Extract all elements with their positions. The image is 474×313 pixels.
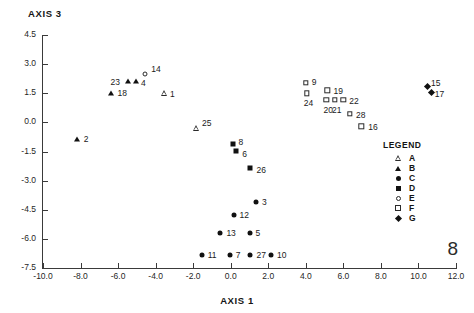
y-tick xyxy=(43,64,48,65)
x-tick-label: 10.0 xyxy=(398,271,438,281)
legend-marker-icon xyxy=(392,216,404,221)
legend-item: F xyxy=(392,203,421,213)
data-point-label: 2 xyxy=(84,134,89,144)
data-point-marker xyxy=(218,231,223,236)
data-point-label: 17 xyxy=(435,89,444,99)
data-point-label: 25 xyxy=(202,118,211,128)
figure-number: 8 xyxy=(447,238,458,260)
data-point-label: 1 xyxy=(170,89,175,99)
data-point-marker xyxy=(74,136,80,141)
data-point-marker xyxy=(230,141,235,146)
legend-marker-icon xyxy=(392,205,404,210)
data-point-marker xyxy=(234,148,239,153)
legend-marker-icon xyxy=(392,186,404,191)
y-tick xyxy=(43,181,48,182)
data-point-marker xyxy=(347,111,352,116)
legend-marker-icon xyxy=(392,176,404,181)
x-tick-label: 0.0 xyxy=(211,271,251,281)
x-tick xyxy=(381,263,382,268)
legend-item: A xyxy=(392,153,421,163)
legend-label: D xyxy=(409,183,415,193)
legend-label: B xyxy=(409,163,415,173)
legend-item: G xyxy=(392,213,421,223)
y-tick xyxy=(43,93,48,94)
data-point-label: 10 xyxy=(277,250,286,260)
data-point-marker xyxy=(324,97,329,102)
data-points-layer: 2182341412586263121351172710924192021222… xyxy=(0,0,474,12)
data-point-label: 4 xyxy=(141,78,146,88)
legend-label: G xyxy=(409,213,416,223)
data-point-marker xyxy=(231,212,236,217)
data-point-label: 24 xyxy=(304,98,313,108)
data-point-label: 6 xyxy=(242,149,247,159)
y-tick-label: -1.5 xyxy=(2,146,36,156)
legend-marker-icon xyxy=(392,196,404,201)
data-point-marker xyxy=(143,71,148,76)
x-tick-label: 12.0 xyxy=(436,271,474,281)
data-point-marker xyxy=(341,97,346,102)
legend-item: B xyxy=(392,163,421,173)
legend-marker-icon xyxy=(392,166,404,171)
data-point-label: 12 xyxy=(240,210,249,220)
data-point-label: 18 xyxy=(118,88,127,98)
y-tick xyxy=(43,239,48,240)
data-point-marker xyxy=(303,80,308,85)
data-point-label: 23 xyxy=(110,77,119,87)
x-tick xyxy=(231,263,232,268)
x-tick xyxy=(306,263,307,268)
data-point-label: 27 xyxy=(256,250,265,260)
data-point-marker xyxy=(428,89,435,96)
x-tick xyxy=(81,263,82,268)
data-point-label: 16 xyxy=(368,122,377,132)
data-point-label: 22 xyxy=(349,96,358,106)
legend-item: D xyxy=(392,183,421,193)
x-tick-label: -8.0 xyxy=(61,271,101,281)
data-point-marker xyxy=(269,253,274,258)
x-tick xyxy=(118,263,119,268)
data-point-label: 13 xyxy=(226,228,235,238)
data-point-marker xyxy=(125,78,131,83)
x-axis-line xyxy=(42,268,457,269)
x-tick xyxy=(456,263,457,268)
data-point-marker xyxy=(254,199,259,204)
data-point-marker xyxy=(304,91,309,96)
y-tick xyxy=(43,122,48,123)
x-tick xyxy=(343,263,344,268)
x-tick-label: 6.0 xyxy=(323,271,363,281)
x-tick-label: -4.0 xyxy=(136,271,176,281)
x-tick xyxy=(418,263,419,268)
legend-marker-icon xyxy=(392,155,404,161)
legend: LEGEND ABCDEFG xyxy=(383,140,421,223)
x-tick-label: -6.0 xyxy=(98,271,138,281)
data-point-marker xyxy=(161,90,167,96)
x-tick xyxy=(193,263,194,268)
data-point-marker xyxy=(227,253,232,258)
data-point-label: 3 xyxy=(262,197,267,207)
legend-label: E xyxy=(409,193,415,203)
legend-title: LEGEND xyxy=(383,140,421,150)
x-tick xyxy=(156,263,157,268)
scatter-plot-figure: AXIS 3 AXIS 1 4.53.01.50.0-1.5-3.0-4.5-6… xyxy=(0,0,474,313)
data-point-label: 7 xyxy=(236,250,241,260)
data-point-label: 14 xyxy=(151,64,160,74)
data-point-marker xyxy=(247,231,252,236)
legend-item: C xyxy=(392,173,421,183)
legend-rows: ABCDEFG xyxy=(383,153,421,223)
data-point-label: 9 xyxy=(312,77,317,87)
data-point-label: 15 xyxy=(431,78,440,88)
data-point-label: 19 xyxy=(333,86,342,96)
legend-label: A xyxy=(409,153,415,163)
y-tick xyxy=(43,152,48,153)
legend-label: C xyxy=(409,173,415,183)
data-point-marker xyxy=(108,91,114,96)
data-point-marker xyxy=(193,125,199,131)
x-tick xyxy=(268,263,269,268)
data-point-marker xyxy=(325,88,330,93)
legend-item: E xyxy=(392,193,421,203)
data-point-marker xyxy=(248,253,253,258)
data-point-label: 28 xyxy=(356,110,365,120)
y-axis-title: AXIS 3 xyxy=(28,8,62,19)
x-tick-label: 4.0 xyxy=(286,271,326,281)
data-point-label: 26 xyxy=(256,165,265,175)
x-tick-label: 2.0 xyxy=(248,271,288,281)
